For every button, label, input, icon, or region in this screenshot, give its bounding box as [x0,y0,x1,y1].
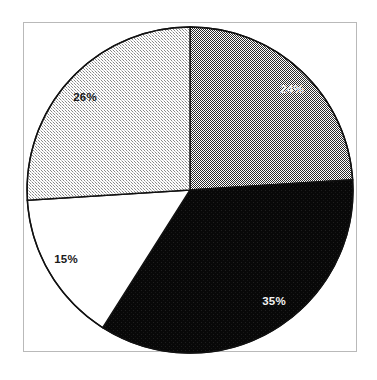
pie-chart-figure: 24% 35% 15% 26% [0,0,377,380]
slice-label-35: 35% [262,295,286,307]
pie-slice-26[interactable] [27,27,190,200]
slice-label-24: 24% [280,83,304,95]
slice-label-15: 15% [54,253,78,265]
pie-chart-svg: 24% 35% 15% 26% [0,0,377,380]
pie-slices [27,27,353,353]
slice-label-26: 26% [73,91,97,103]
pie-slice-24[interactable] [190,27,353,190]
